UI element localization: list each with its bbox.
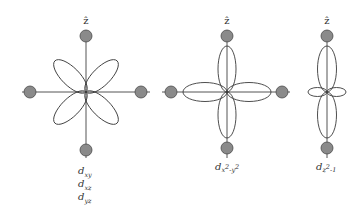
ligand-top bbox=[321, 30, 333, 42]
torus-right bbox=[327, 88, 346, 97]
z-axis-label: ẑ bbox=[324, 15, 329, 26]
d-orbital-diagram: ẑ dxy dxz dyz ẑ dx2-y2 ẑ dz2-1 bbox=[0, 0, 363, 209]
ligand-right bbox=[276, 86, 288, 98]
ligand-right bbox=[135, 86, 147, 98]
orbital-label-dxy: dxy bbox=[78, 165, 92, 179]
torus-left bbox=[308, 88, 327, 97]
orbital-label-dyz: dyz bbox=[78, 191, 92, 205]
ligand-left bbox=[24, 86, 36, 98]
panel-dxy: ẑ dxy dxz dyz bbox=[22, 15, 150, 205]
ligand-bottom bbox=[321, 142, 333, 154]
ligand-bottom bbox=[221, 142, 233, 154]
ligand-top bbox=[221, 30, 233, 42]
orbital-label-dx2-y2: dx2-y2 bbox=[215, 161, 239, 174]
orbital-label-dz2: dz2-1 bbox=[316, 161, 336, 174]
ligand-bottom bbox=[80, 144, 92, 156]
z-axis-label: ẑ bbox=[83, 15, 88, 26]
z-axis-label: ẑ bbox=[224, 15, 229, 26]
orbital-label-dxz: dxz bbox=[78, 178, 92, 192]
ligand-top bbox=[80, 30, 92, 42]
panel-dx2-y2: ẑ dx2-y2 bbox=[162, 15, 290, 174]
ligand-left bbox=[165, 86, 177, 98]
panel-dz2: ẑ dz2-1 bbox=[308, 15, 346, 174]
